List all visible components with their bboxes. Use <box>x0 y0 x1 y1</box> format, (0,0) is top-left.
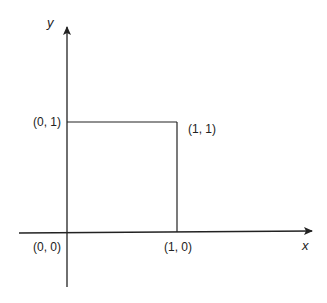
point-label-1-0: (1, 0) <box>164 240 192 254</box>
point-label-1-1: (1, 1) <box>188 122 216 136</box>
x-axis <box>19 231 312 233</box>
y-axis-label: y <box>46 15 55 30</box>
point-label-0-0: (0, 0) <box>33 240 61 254</box>
point-label-0-1: (0, 1) <box>33 115 61 129</box>
x-axis-label: x <box>301 238 309 253</box>
unit-square-diagram: y x (0, 1) (1, 1) (0, 0) (1, 0) <box>0 0 327 303</box>
